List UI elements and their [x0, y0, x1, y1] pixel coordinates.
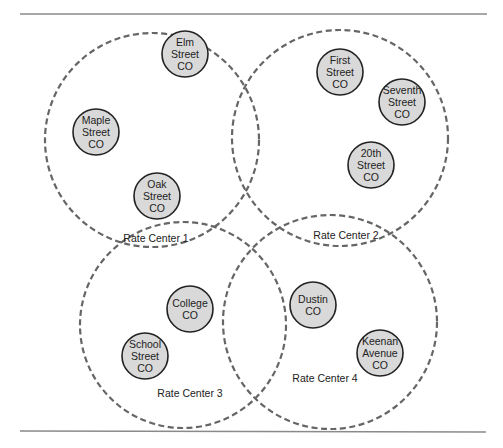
- central-office-label: Street: [357, 159, 385, 171]
- central-office-label: 20th: [361, 147, 382, 159]
- central-office-label: College: [172, 297, 208, 309]
- rate-center-3-label: Rate Center 3: [157, 387, 223, 399]
- central-office-label: Street: [388, 96, 416, 108]
- central-office-label: Keenan: [362, 335, 398, 347]
- central-office-label: Street: [171, 48, 199, 60]
- central-office-node: SchoolStreetCO: [122, 333, 168, 379]
- central-office-label: CO: [372, 359, 388, 371]
- central-office-node: DustinCO: [290, 282, 336, 328]
- central-office-label: First: [330, 54, 350, 66]
- rate-center-diagram: Rate Center 1 Rate Center 2 Rate Center …: [0, 0, 503, 448]
- central-office-node: KeenanAvenueCO: [357, 330, 403, 376]
- central-office-label: CO: [149, 202, 165, 214]
- central-office-label: Street: [82, 126, 110, 138]
- rate-center-1-label: Rate Center 1: [123, 232, 189, 244]
- central-office-label: CO: [177, 60, 193, 72]
- central-office-node: SeventhStreetCO: [379, 79, 425, 125]
- central-office-label: CO: [305, 305, 321, 317]
- central-office-node: CollegeCO: [167, 286, 213, 332]
- central-office-label: CO: [182, 309, 198, 321]
- central-office-label: School: [129, 338, 161, 350]
- central-office-label: Street: [131, 350, 159, 362]
- central-office-node: MapleStreetCO: [73, 109, 119, 155]
- central-office-label: CO: [137, 362, 153, 374]
- central-office-label: Maple: [82, 114, 111, 126]
- central-office-label: Oak: [147, 178, 167, 190]
- central-office-label: Avenue: [362, 347, 398, 359]
- central-office-label: Dustin: [298, 293, 328, 305]
- bottom-rule: [20, 431, 486, 432]
- central-office-label: Seventh: [383, 84, 422, 96]
- central-office-node: OakStreetCO: [134, 173, 180, 219]
- central-office-label: Street: [326, 66, 354, 78]
- rate-center-labels: Rate Center 1 Rate Center 2 Rate Center …: [123, 229, 379, 399]
- central-office-label: Street: [143, 190, 171, 202]
- central-offices: ElmStreetCOMapleStreetCOOakStreetCOFirst…: [73, 31, 425, 379]
- rate-center-4-boundary: [223, 215, 437, 429]
- rate-center-4-label: Rate Center 4: [292, 372, 358, 384]
- central-office-node: 20thStreetCO: [348, 142, 394, 188]
- central-office-label: CO: [332, 78, 348, 90]
- rate-center-2-label: Rate Center 2: [313, 229, 379, 241]
- central-office-label: CO: [363, 171, 379, 183]
- central-office-node: ElmStreetCO: [162, 31, 208, 77]
- central-office-node: FirstStreetCO: [317, 49, 363, 95]
- central-office-label: Elm: [176, 36, 194, 48]
- central-office-label: CO: [394, 108, 410, 120]
- central-office-label: CO: [88, 138, 104, 150]
